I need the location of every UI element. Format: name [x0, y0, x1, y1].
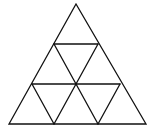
triangle-diagram — [0, 0, 149, 132]
outer-triangle — [9, 4, 146, 124]
diagonal-line-2 — [32, 84, 54, 124]
diagonal-line-4 — [98, 84, 120, 124]
